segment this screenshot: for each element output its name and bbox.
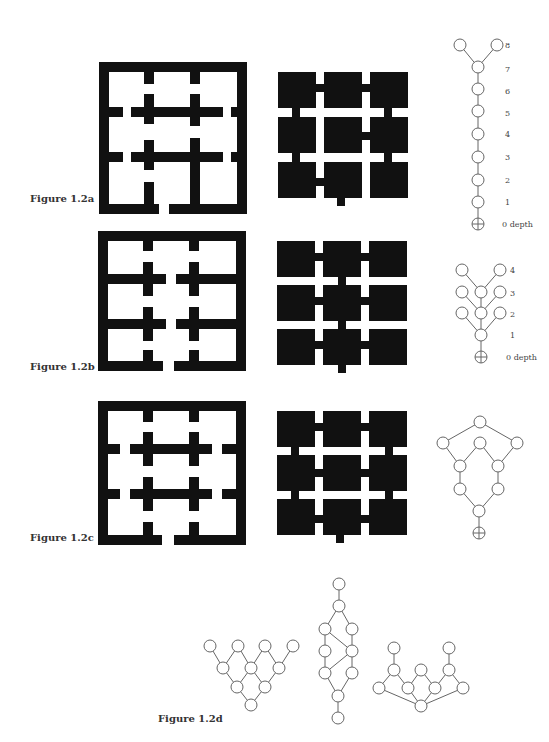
graph-1-2d-right bbox=[373, 642, 469, 712]
depth-label: 0 depth bbox=[506, 353, 537, 362]
depth-label: 2 bbox=[510, 310, 515, 319]
depth-label: 6 bbox=[505, 87, 510, 96]
figure-canvas: 8 7 6 5 4 3 2 1 0 depth bbox=[0, 0, 549, 742]
depth-label: 2 bbox=[505, 176, 510, 185]
plan-1-2b bbox=[98, 231, 246, 371]
solid-1-2a bbox=[278, 72, 408, 206]
graph-1-2b bbox=[456, 264, 506, 363]
graph-1-2a bbox=[454, 39, 503, 230]
graph-1-2d-middle bbox=[319, 578, 358, 724]
depth-label: 4 bbox=[505, 130, 510, 139]
plan-1-2a bbox=[99, 62, 247, 214]
depth-label: 7 bbox=[505, 65, 510, 74]
plan-1-2c bbox=[98, 401, 246, 545]
depth-label: 1 bbox=[510, 331, 515, 340]
solid-1-2c bbox=[277, 411, 407, 543]
depth-label: 8 bbox=[505, 41, 510, 50]
depth-label: 1 bbox=[505, 198, 510, 207]
depth-label: 5 bbox=[505, 109, 510, 118]
graph-1-2c bbox=[437, 416, 523, 539]
solid-1-2b bbox=[277, 241, 407, 373]
graph-1-2d-left bbox=[204, 640, 299, 711]
depth-label: 0 depth bbox=[502, 220, 533, 229]
depth-label: 3 bbox=[505, 153, 510, 162]
depth-label: 3 bbox=[510, 289, 515, 298]
depth-labels-1-2a: 8 7 6 5 4 3 2 1 0 depth bbox=[502, 41, 533, 229]
depth-labels-1-2b: 4 3 2 1 0 depth bbox=[506, 266, 537, 362]
depth-label: 4 bbox=[510, 266, 515, 275]
